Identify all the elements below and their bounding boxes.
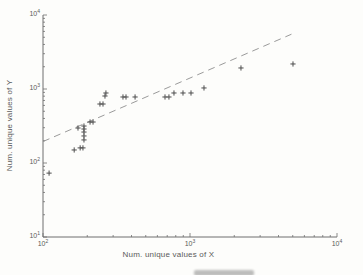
- data-point-marker: [80, 145, 85, 150]
- x-axis-label: Num. unique values of X: [0, 250, 337, 259]
- x-tick-label: 103: [180, 240, 200, 247]
- data-point-marker: [238, 65, 243, 70]
- data-point-marker: [123, 94, 128, 99]
- data-point-marker: [100, 101, 105, 106]
- data-point-marker: [102, 93, 107, 98]
- bottom-edge-artifact: [194, 270, 254, 275]
- data-point-marker: [81, 137, 86, 142]
- data-point-marker: [132, 94, 137, 99]
- data-point-marker: [188, 90, 193, 95]
- scatter-plot-figure: Num. unique values of X Num. unique valu…: [0, 0, 363, 275]
- data-point-marker: [201, 85, 206, 90]
- y-tick-label: 102: [22, 158, 40, 165]
- data-point-marker: [180, 90, 185, 95]
- plot-canvas: [0, 0, 363, 275]
- data-point-marker: [290, 61, 295, 66]
- data-point-marker: [46, 171, 51, 176]
- y-tick-label: 101: [22, 232, 40, 239]
- data-point-marker: [166, 94, 171, 99]
- data-point-marker: [103, 90, 108, 95]
- y-axis-label: Num. unique values of Y: [5, 51, 14, 201]
- data-point-marker: [90, 119, 95, 124]
- x-tick-label: 102: [33, 240, 53, 247]
- data-point-marker: [75, 125, 80, 130]
- data-point-marker: [72, 147, 77, 152]
- y-tick-label: 103: [22, 84, 40, 91]
- y-tick-label: 104: [22, 10, 40, 17]
- trend-line: [43, 34, 291, 141]
- data-points: [46, 61, 295, 175]
- x-tick-label: 104: [327, 240, 347, 247]
- axes: [43, 15, 337, 237]
- data-point-marker: [171, 90, 176, 95]
